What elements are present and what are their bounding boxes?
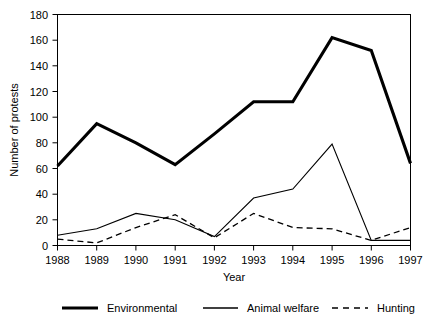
series-line-environmental (58, 38, 411, 166)
x-tick-label: 1991 (163, 254, 187, 266)
x-axis-title: Year (223, 271, 246, 283)
x-tick-label: 1989 (84, 254, 108, 266)
y-tick-label: 100 (30, 111, 48, 123)
x-tick-label: 1994 (281, 254, 305, 266)
x-tick-label: 1996 (359, 254, 383, 266)
y-tick-label: 80 (36, 137, 48, 149)
chart-legend: Environmental Animal welfare Hunting (62, 302, 415, 314)
x-tick-label: 1997 (398, 254, 422, 266)
legend-label-environmental: Environmental (107, 302, 177, 314)
y-tick-label: 180 (30, 9, 48, 21)
y-tick-label: 20 (36, 214, 48, 226)
y-tick-label: 140 (30, 60, 48, 72)
series-group (58, 38, 411, 243)
y-tick-label: 120 (30, 86, 48, 98)
y-tick-label: 160 (30, 34, 48, 46)
x-tick-label: 1993 (241, 254, 265, 266)
x-tick-label: 1988 (45, 254, 69, 266)
y-tick-label: 0 (42, 240, 48, 252)
y-axis-ticks (53, 15, 58, 246)
y-tick-label: 40 (36, 188, 48, 200)
legend-label-hunting: Hunting (377, 302, 415, 314)
y-tick-label: 60 (36, 163, 48, 175)
x-tick-label: 1995 (320, 254, 344, 266)
y-axis-title: Number of protests (8, 83, 20, 177)
y-axis-tick-labels: 180 160 140 120 100 80 60 40 20 0 (30, 9, 48, 252)
x-axis-tick-labels: 1988 1989 1990 1991 1992 1993 1994 1995 … (45, 254, 422, 266)
chart-canvas: 180 160 140 120 100 80 60 40 20 0 1988 (0, 0, 433, 324)
x-tick-label: 1992 (202, 254, 226, 266)
x-axis-ticks (58, 246, 411, 251)
legend-label-animal-welfare: Animal welfare (247, 302, 319, 314)
protests-line-chart: 180 160 140 120 100 80 60 40 20 0 1988 (0, 0, 433, 324)
x-tick-label: 1990 (124, 254, 148, 266)
